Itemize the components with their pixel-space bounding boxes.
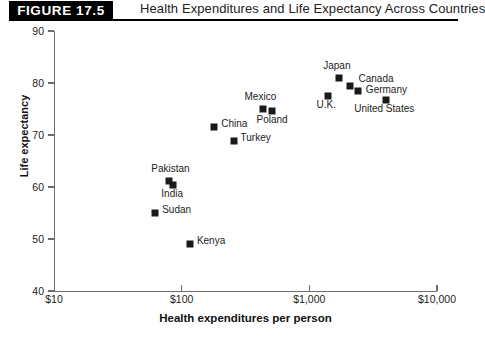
- data-label-japan: Japan: [323, 61, 350, 71]
- x-tick-label-1: $100: [170, 293, 193, 305]
- data-point-japan[interactable]: [335, 74, 342, 81]
- y-tick-80: [48, 82, 54, 83]
- x-axis-line: [54, 291, 437, 292]
- data-label-canada: Canada: [358, 74, 393, 84]
- x-tick-1: [181, 285, 182, 291]
- x-axis-title: Health expenditures per person: [54, 312, 437, 324]
- y-tick-label-50: 50: [18, 233, 44, 245]
- data-label-united-states: United States: [354, 104, 414, 114]
- data-label-pakistan: Pakistan: [151, 164, 189, 174]
- y-tick-50: [48, 238, 54, 239]
- y-axis-title: Life expectancy: [18, 76, 30, 196]
- data-label-poland: Poland: [256, 115, 287, 125]
- data-label-germany: Germany: [366, 85, 407, 95]
- data-label-sudan: Sudan: [162, 205, 191, 215]
- y-tick-90: [48, 30, 54, 31]
- data-label-mexico: Mexico: [245, 92, 277, 102]
- data-label-u-k-: U.K.: [316, 100, 335, 110]
- data-label-china: China: [221, 119, 247, 129]
- y-axis-line: [54, 31, 55, 292]
- y-tick-60: [48, 186, 54, 187]
- data-point-sudan[interactable]: [152, 210, 159, 217]
- data-point-mexico[interactable]: [259, 106, 266, 113]
- y-tick-70: [48, 134, 54, 135]
- data-label-india: India: [161, 189, 183, 199]
- data-point-turkey[interactable]: [230, 138, 237, 145]
- x-tick-2: [309, 285, 310, 291]
- y-tick-label-40: 40: [18, 285, 44, 297]
- x-tick-label-0: $10: [45, 293, 63, 305]
- data-point-china[interactable]: [211, 124, 218, 131]
- y-tick-label-90: 90: [18, 25, 44, 37]
- data-label-kenya: Kenya: [197, 236, 225, 246]
- x-tick-label-2: $1,000: [293, 293, 325, 305]
- y-tick-40: [48, 290, 54, 291]
- data-label-turkey: Turkey: [241, 133, 271, 143]
- x-tick-label-3: $10,000: [418, 293, 456, 305]
- x-tick-3: [436, 285, 437, 291]
- data-point-kenya[interactable]: [186, 241, 193, 248]
- data-point-germany[interactable]: [354, 87, 361, 94]
- data-point-canada[interactable]: [347, 82, 354, 89]
